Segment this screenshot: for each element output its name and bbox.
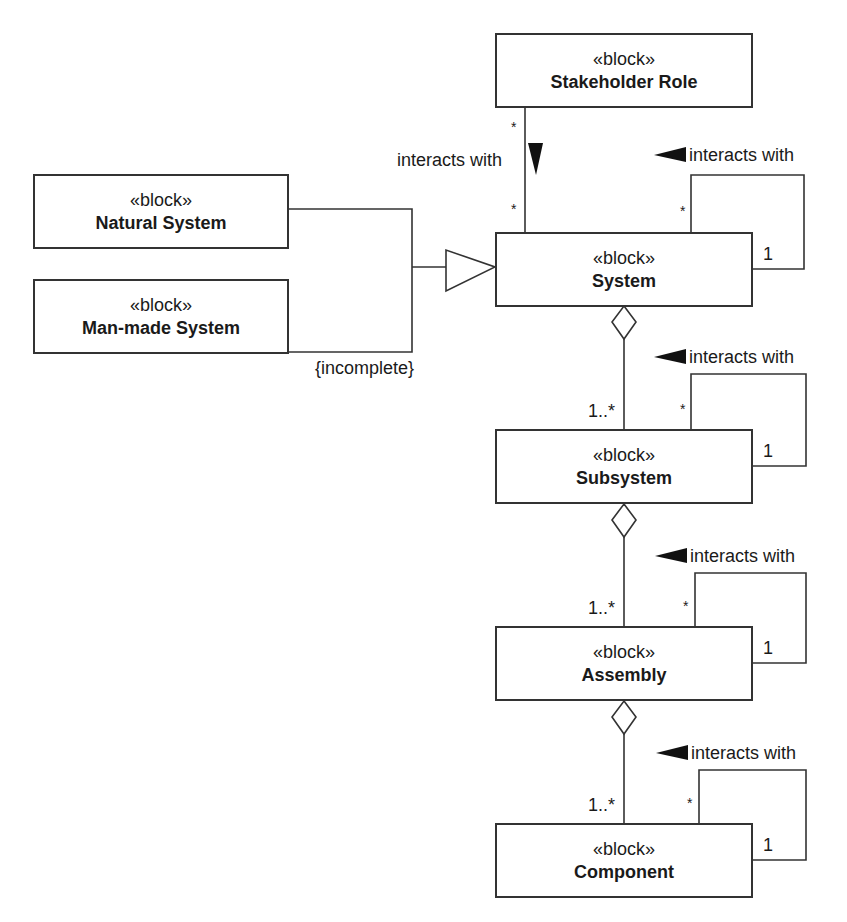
direction-arrow-left-icon [654,147,686,162]
block-name: Assembly [581,663,666,687]
block-name: Man-made System [82,316,240,340]
multiplicity: * [687,796,692,810]
multiplicity: 1..* [588,401,615,421]
block-assembly[interactable]: «block» Assembly [495,626,753,701]
self-association-label: interacts with [690,546,795,566]
stereotype-label: «block» [593,247,655,269]
block-name: Component [574,860,674,884]
stereotype-label: «block» [593,444,655,466]
generalization-arrowhead-icon [446,250,495,291]
multiplicity: 1 [763,835,773,855]
multiplicity: * [511,202,516,216]
block-name: Stakeholder Role [550,70,697,94]
self-association-label: interacts with [689,145,794,165]
stereotype-label: «block» [130,189,192,211]
multiplicity: 1..* [588,795,615,815]
block-component[interactable]: «block» Component [495,823,753,898]
block-name: System [592,269,656,293]
direction-arrow-left-icon [655,548,687,563]
aggregation-diamond-icon [612,504,636,537]
block-name: Natural System [95,211,226,235]
constraint-label: {incomplete} [315,358,414,378]
stereotype-label: «block» [593,48,655,70]
block-subsystem[interactable]: «block» Subsystem [495,429,753,504]
multiplicity: 1 [763,638,773,658]
block-natural-system[interactable]: «block» Natural System [33,174,289,249]
stereotype-label: «block» [593,838,655,860]
self-association-label: interacts with [691,743,796,763]
multiplicity: 1 [763,441,773,461]
stereotype-label: «block» [593,641,655,663]
aggregation-diamond-icon [612,306,636,339]
multiplicity: * [680,204,685,218]
multiplicity: 1 [763,244,773,264]
block-name: Subsystem [576,466,672,490]
block-system[interactable]: «block» System [495,232,753,307]
multiplicity: * [511,120,516,134]
multiplicity: * [683,599,688,613]
multiplicity: 1..* [588,598,615,618]
block-stakeholder-role[interactable]: «block» Stakeholder Role [495,33,753,108]
block-man-made-system[interactable]: «block» Man-made System [33,279,289,354]
direction-arrow-left-icon [654,349,686,364]
direction-arrow-down-icon [528,143,543,175]
direction-arrow-left-icon [656,745,688,760]
generalization-line [289,209,412,352]
self-association-label: interacts with [689,347,794,367]
association-label: interacts with [397,150,502,170]
multiplicity: * [680,402,685,416]
stereotype-label: «block» [130,294,192,316]
aggregation-diamond-icon [612,701,636,734]
